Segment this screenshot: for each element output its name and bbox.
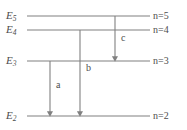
quantum-label-n2: n=2 [153,111,169,121]
transition-label-c-text: c [121,32,125,43]
energy-label-e2: E2 [6,110,16,122]
energy-level-diagram: E5 E4 E3 E2 n=5 n=4 n=3 n=2 a b c [0,0,187,130]
transition-label-c: c [121,33,125,43]
quantum-label-n3-text: n=3 [153,55,169,66]
energy-label-e4: E4 [6,24,16,36]
energy-label-e4-subscript: 4 [13,28,17,37]
transition-label-b: b [86,63,91,73]
energy-label-e3-text: E [6,54,13,66]
transition-arrows [50,16,115,114]
energy-label-e2-text: E [6,109,13,121]
quantum-label-n4-text: n=4 [153,24,169,35]
transition-label-a-text: a [56,79,60,90]
energy-label-e5-subscript: 5 [13,14,17,23]
energy-label-e2-subscript: 2 [13,114,17,123]
quantum-label-n2-text: n=2 [153,110,169,121]
energy-label-e3: E3 [6,55,16,67]
quantum-label-n5: n=5 [153,11,169,21]
transition-label-a: a [56,80,60,90]
quantum-label-n4: n=4 [153,25,169,35]
quantum-label-n3: n=3 [153,56,169,66]
energy-label-e3-subscript: 3 [13,59,17,68]
energy-label-e4-text: E [6,23,13,35]
energy-label-e5: E5 [6,10,16,22]
transition-label-b-text: b [86,62,91,73]
energy-label-e5-text: E [6,9,13,21]
quantum-label-n5-text: n=5 [153,10,169,21]
